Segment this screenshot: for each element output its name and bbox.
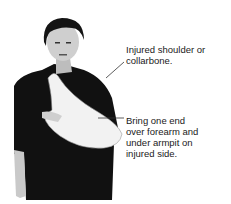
sling-illustration: Injured shoulder or collarbone. Bring on… (0, 0, 231, 204)
callout-injured-shoulder: Injured shoulder or collarbone. (126, 44, 205, 66)
person-with-sling-image (0, 0, 231, 204)
callout-bring-one-end: Bring one end over forearm and under arm… (126, 115, 198, 159)
